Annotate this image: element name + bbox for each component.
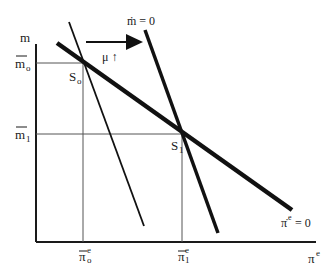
pi-dot-zero-line — [57, 43, 292, 210]
svg-text:m: m — [15, 127, 25, 142]
m-dot-zero-label: ṁ = 0 — [127, 14, 155, 28]
svg-text:m: m — [15, 56, 25, 71]
svg-text:o: o — [26, 63, 31, 73]
svg-text:e: e — [87, 245, 91, 255]
svg-text:1: 1 — [179, 145, 184, 155]
y-axis-label: m — [20, 30, 30, 45]
svg-text:e: e — [316, 248, 320, 258]
pi-dot-zero-label: π̇ e = 0 — [281, 213, 311, 230]
svg-text:e: e — [185, 245, 189, 255]
x-tick-pi1: π 1 e — [178, 245, 190, 265]
svg-text:S: S — [69, 69, 76, 84]
x-tick-pi0: π o e — [79, 245, 92, 265]
phase-diagram: m m o m 1 π o e π 1 e π e S o S 1 ṁ = 0 … — [0, 0, 333, 276]
svg-text:π̇: π̇ — [281, 216, 288, 230]
svg-text:S: S — [171, 138, 178, 153]
svg-text:π: π — [308, 251, 315, 266]
mu-increase-label: μ ↑ — [102, 50, 117, 64]
point-s0-label: S o — [69, 69, 82, 86]
y-tick-m1: m 1 — [15, 127, 31, 144]
svg-text:1: 1 — [26, 134, 31, 144]
svg-text:= 0: = 0 — [292, 216, 311, 230]
svg-text:o: o — [77, 76, 82, 86]
x-axis-label: π e — [308, 248, 320, 266]
svg-text:1: 1 — [185, 255, 190, 265]
shift-arrow-icon — [126, 34, 143, 50]
svg-text:o: o — [87, 255, 92, 265]
y-tick-m0: m o — [15, 56, 31, 73]
